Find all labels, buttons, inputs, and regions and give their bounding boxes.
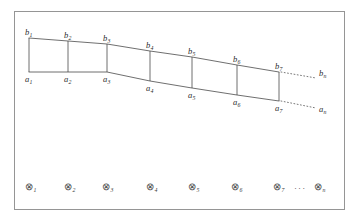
label-subscript: 7 [279, 108, 282, 114]
circled-times-icon: ⊗ [25, 182, 33, 192]
figure-container: b1b2b3b4b5b6b7 a1a2a3a4a5a6a7 bnan ⊗1⊗2⊗… [0, 0, 359, 222]
circled-times-icon: ⊗ [102, 182, 110, 192]
node-5: ⊗5 [188, 183, 199, 194]
label-subscript: 5 [192, 51, 195, 57]
vertex-label-a5: a5 [188, 91, 195, 101]
node-row-ellipsis: ··· [294, 184, 306, 193]
label-subscript: 4 [150, 45, 153, 51]
node-n: ⊗n [314, 183, 325, 194]
circled-times-icon: ⊗ [314, 182, 322, 192]
label-subscript: 2 [68, 35, 71, 41]
terminal-label-bn: bn [319, 69, 326, 79]
vertex-label-b3: b3 [103, 34, 110, 44]
vertex-label-a3: a3 [103, 75, 110, 85]
label-subscript: 1 [29, 32, 32, 38]
circled-times-icon: ⊗ [146, 182, 154, 192]
vertex-label-b7: b7 [275, 62, 282, 72]
circled-times-icon: ⊗ [273, 182, 281, 192]
node-subscript: 1 [33, 187, 36, 193]
node-subscript: 4 [154, 187, 157, 193]
node-6: ⊗6 [231, 183, 242, 194]
band-top-dotted-extension [281, 72, 316, 78]
node-3: ⊗3 [102, 183, 113, 194]
circled-times-icon: ⊗ [231, 182, 239, 192]
label-subscript: n [323, 73, 326, 79]
node-subscript: n [322, 187, 325, 193]
vertex-label-b2: b2 [64, 31, 71, 41]
label-subscript: 6 [237, 59, 240, 65]
band-top-edge [29, 38, 279, 72]
node-subscript: 3 [110, 187, 113, 193]
node-2: ⊗2 [64, 183, 75, 194]
vertex-label-a4: a4 [146, 84, 153, 94]
vertex-label-b5: b5 [188, 47, 195, 57]
vertex-label-a1: a1 [25, 75, 32, 85]
vertex-label-a2: a2 [64, 75, 71, 85]
label-subscript: 7 [279, 66, 282, 72]
band-cross-bars [29, 38, 279, 101]
circled-times-icon: ⊗ [64, 182, 72, 192]
label-subscript: 5 [192, 95, 195, 101]
vertex-label-b6: b6 [233, 55, 240, 65]
vertex-label-b4: b4 [146, 41, 153, 51]
band-bottom-dotted-extension [281, 101, 316, 108]
label-subscript: 3 [107, 38, 110, 44]
vertex-label-a6: a6 [233, 98, 240, 108]
circled-times-icon: ⊗ [188, 182, 196, 192]
label-subscript: 1 [29, 79, 32, 85]
node-4: ⊗4 [146, 183, 157, 194]
node-subscript: 7 [281, 187, 284, 193]
label-subscript: 4 [150, 88, 153, 94]
node-7: ⊗7 [273, 183, 284, 194]
label-subscript: 6 [237, 102, 240, 108]
terminal-label-an: an [319, 105, 326, 115]
node-subscript: 2 [72, 187, 75, 193]
node-subscript: 6 [239, 187, 242, 193]
label-subscript: 3 [107, 79, 110, 85]
node-subscript: 5 [196, 187, 199, 193]
vertex-label-b1: b1 [25, 28, 32, 38]
label-subscript: 2 [68, 79, 71, 85]
node-1: ⊗1 [25, 183, 36, 194]
label-subscript: n [323, 109, 326, 115]
vertex-label-a7: a7 [275, 104, 282, 114]
